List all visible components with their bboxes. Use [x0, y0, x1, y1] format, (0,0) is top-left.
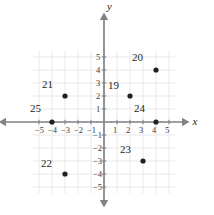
x-tick-label: 5	[165, 126, 169, 135]
x-tick-label: −4	[48, 126, 57, 135]
point-label: 19	[108, 80, 119, 91]
data-point	[62, 171, 67, 176]
y-tick-label: 2	[96, 92, 100, 101]
x-tick-label: 1	[113, 126, 117, 135]
x-tick-label: −3	[61, 126, 70, 135]
y-axis-arrow-down	[100, 200, 108, 208]
x-axis-arrow-left	[0, 118, 6, 126]
y-tick-label: 1	[96, 105, 100, 114]
y-tick-label: −2	[93, 144, 102, 153]
point-label: 25	[30, 103, 41, 114]
y-tick-label: 4	[96, 66, 100, 75]
x-tick-label: 4	[152, 126, 156, 135]
point-label: 21	[42, 79, 53, 90]
coordinate-plane-figure: −5−4−3−2−112345 54321−1−2−3−4−5 19202122…	[0, 0, 214, 215]
point-label: 20	[132, 52, 143, 63]
data-point	[153, 67, 158, 72]
point-label: 24	[134, 103, 145, 114]
y-axis-label: y	[107, 1, 112, 12]
x-tick-label: 3	[139, 126, 143, 135]
point-label: 22	[41, 158, 52, 169]
x-tick-label: 2	[126, 126, 130, 135]
data-point	[127, 93, 132, 98]
data-point	[153, 119, 158, 124]
y-tick-label: 3	[96, 79, 100, 88]
x-tick-label: −2	[74, 126, 83, 135]
y-tick-label: −5	[93, 183, 102, 192]
y-tick-label: 5	[96, 53, 100, 62]
y-tick-label: −3	[93, 157, 102, 166]
data-point	[49, 119, 54, 124]
y-tick-label: −1	[93, 131, 102, 140]
y-tick-label: −4	[93, 170, 102, 179]
data-point	[62, 93, 67, 98]
x-axis-label: x	[193, 116, 198, 127]
point-label: 23	[120, 144, 131, 155]
y-axis-arrow-up	[100, 13, 108, 21]
data-point	[140, 158, 145, 163]
x-tick-label: −5	[35, 126, 44, 135]
x-axis-arrow-right	[182, 118, 190, 126]
